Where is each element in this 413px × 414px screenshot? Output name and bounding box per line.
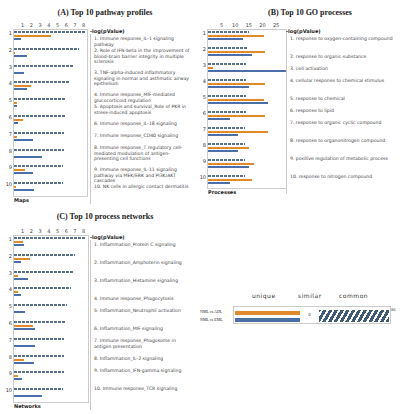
panel-b-x-ticks: 510152025 [208, 22, 288, 28]
blue-bar [208, 54, 252, 56]
legend-item: 5. response to chemical [290, 96, 410, 102]
orange-bar [14, 375, 18, 377]
row-number: 3 [2, 270, 12, 276]
blue-bar [14, 328, 35, 330]
header-unique: unique [252, 292, 276, 299]
blue-bar [14, 362, 34, 364]
panel-a-corner-label: Maps [14, 197, 29, 203]
dashed-bar [14, 338, 64, 340]
orange-bar [208, 51, 265, 53]
blue-bar [14, 156, 42, 158]
orange-bar [14, 119, 23, 121]
header-similar: similar [298, 292, 322, 299]
row-number: 1 [2, 236, 12, 242]
panel-c-plot-frame [13, 235, 89, 403]
blue-bar [208, 182, 230, 184]
common-value: 80 [391, 308, 395, 312]
legend-item: 6. Inflammation_MIF signaling [94, 326, 194, 332]
blue-bar [14, 278, 28, 280]
orange-bar [208, 147, 249, 149]
legend-item: 8. Immune response_T regulatory cell-med… [94, 145, 194, 162]
blue-bar [14, 88, 27, 90]
legend-item: 2. Role of IFN-beta in the improvement o… [94, 48, 194, 65]
x-tick: 4 [47, 228, 50, 234]
row-number: 4 [196, 78, 206, 84]
orange-bar [208, 163, 254, 165]
x-tick: 7 [73, 22, 76, 28]
x-tick: 20 [259, 22, 265, 28]
dashed-bar [208, 31, 249, 33]
legend-item: 7. Immune response_CD40 signaling [94, 133, 194, 139]
panel-b-legend: 1. response to oxygen-containing compoun… [286, 34, 411, 194]
legend-item: 2. response to organic substance [290, 54, 410, 60]
orange-bar [14, 52, 15, 54]
x-tick: 3 [39, 22, 42, 28]
legend-item: 9. Inflammation_IFN-gamma signaling [94, 368, 194, 374]
dashed-bar [14, 31, 86, 33]
blue-bar [208, 38, 243, 40]
row-number: 4 [2, 286, 12, 292]
orange-bar [14, 359, 24, 361]
dashed-bar [208, 95, 246, 97]
dashed-bar [208, 175, 245, 177]
legend-item: 7. Immune response_Phagosome in antigen … [94, 338, 194, 349]
unique-bar-adl [235, 311, 300, 315]
dashed-bar [14, 388, 63, 390]
x-tick: 15 [246, 22, 252, 28]
row-number: 5 [196, 94, 206, 100]
row-number: 7 [2, 337, 12, 343]
row-number: 7 [2, 131, 12, 137]
row-number: 6 [2, 320, 12, 326]
dashed-bar [14, 132, 64, 134]
row-label-nml-eml: NML vs EML [200, 317, 223, 322]
row-number: 4 [2, 80, 12, 86]
blue-bar [14, 378, 22, 380]
orange-bar [14, 102, 17, 104]
x-tick: 2 [30, 22, 33, 28]
dashed-bar [14, 165, 63, 167]
row-label-nml-adl: NML vs ADL [200, 309, 222, 314]
x-tick: 4 [47, 22, 50, 28]
row-number: 6 [196, 110, 206, 116]
dashed-bar [14, 271, 73, 273]
orange-bar [208, 179, 252, 181]
legend-item: 4. Immune response_MIF-mediated glucocor… [94, 92, 194, 103]
panel-b-chart: 510152025 12345678910 Processes -log(pVa… [200, 20, 413, 205]
panel-c-chart: 12345678 12345678910 Networks -log(pValu… [0, 226, 200, 414]
dashed-bar [14, 355, 64, 357]
panel-b-corner-label: Processes [208, 189, 236, 195]
x-tick: 5 [56, 22, 59, 28]
legend-item: 6. Immune response_IL-18 signaling [94, 121, 194, 127]
row-number: 9 [196, 158, 206, 164]
blue-bar [14, 55, 27, 57]
x-tick: 6 [65, 22, 68, 28]
row-number: 5 [2, 303, 12, 309]
orange-bar [14, 241, 23, 243]
legend-item: 5. Apoptosis and survival_Role of PKR in… [94, 104, 194, 115]
x-tick: 1 [21, 22, 24, 28]
row-number: 1 [2, 30, 12, 36]
dashed-bar [208, 127, 245, 129]
row-number: 1 [196, 30, 206, 36]
panel-a-legend: 1. Immune response_IL-1 signaling pathwa… [90, 34, 195, 204]
blue-bar [208, 150, 238, 152]
blue-bar [208, 166, 249, 168]
header-common: common [339, 292, 368, 299]
blue-bar [14, 311, 25, 313]
legend-item: 1. response to oxygen-containing compoun… [290, 36, 410, 42]
orange-bar [208, 83, 265, 85]
dashed-bar [14, 182, 63, 184]
similar-value: 0 [301, 312, 318, 317]
dashed-bar [14, 115, 65, 117]
blue-bar [14, 244, 24, 246]
x-tick: 8 [82, 228, 85, 234]
legend-item: 8. Inflammation_IL-2 signaling [94, 356, 194, 362]
row-number: 10 [2, 387, 12, 393]
panel-a-chart: 12345678 12345678910 Maps -log(pValue) 1… [0, 20, 200, 210]
blue-bar [14, 122, 18, 124]
x-tick: 6 [65, 228, 68, 234]
blue-bar [208, 134, 238, 136]
blue-bar [14, 105, 17, 107]
row-number: 3 [2, 64, 12, 70]
blue-bar [14, 345, 35, 347]
